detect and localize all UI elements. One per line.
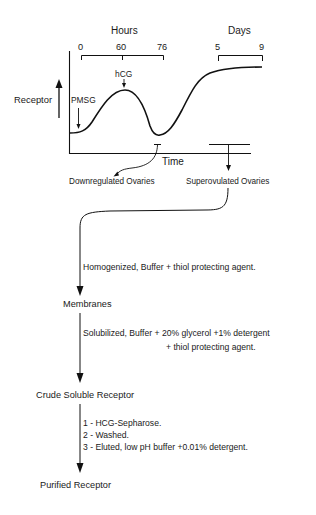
step-purify-1: 1 - HCG-Sepharose. bbox=[83, 418, 161, 428]
hcg-annotation: hCG bbox=[115, 69, 132, 79]
diagram-canvas bbox=[0, 0, 316, 515]
pmsg-annotation: PMSG bbox=[71, 95, 96, 105]
downregulated-ovaries-label: Downregulated Ovaries bbox=[69, 177, 155, 187]
pmsg-arrow-icon bbox=[77, 108, 81, 129]
superovulated-ovaries-label: Superovulated Ovaries bbox=[186, 177, 269, 187]
downregulated-sample-marker bbox=[114, 145, 162, 177]
days-label: Days bbox=[228, 26, 251, 36]
y-axis-label: Receptor bbox=[14, 95, 52, 105]
x-axis-label: Time bbox=[162, 157, 184, 167]
step-purify-3: 3 - Eluted, low pH buffer +0.01% deterge… bbox=[83, 442, 248, 452]
receptor-up-arrow-icon bbox=[56, 79, 63, 118]
step-solubilize-line1: Solubilized, Buffer + 20% glycerol +1% d… bbox=[83, 328, 270, 338]
hcg-arrow-icon bbox=[122, 79, 126, 88]
hour-tick-0: 0 bbox=[78, 42, 83, 52]
hours-label: Hours bbox=[111, 26, 138, 36]
superovulated-sample-marker bbox=[209, 145, 250, 172]
hours-bracket bbox=[82, 56, 164, 61]
step-homogenize-label: Homogenized, Buffer + thiol protecting a… bbox=[83, 262, 256, 272]
step-purify-2: 2 - Washed. bbox=[83, 430, 129, 440]
receptor-curve bbox=[70, 67, 262, 135]
node-membranes: Membranes bbox=[63, 299, 112, 309]
flow-arrow-homogenize bbox=[77, 188, 229, 296]
flow-arrow-solubilize bbox=[77, 313, 84, 383]
node-crude-soluble-receptor: Crude Soluble Receptor bbox=[36, 390, 134, 400]
hour-tick-60: 60 bbox=[116, 42, 126, 52]
node-purified-receptor: Purified Receptor bbox=[40, 480, 111, 490]
hour-tick-76: 76 bbox=[157, 42, 167, 52]
step-solubilize-line2: + thiol protecting agent. bbox=[166, 342, 256, 352]
days-bracket bbox=[219, 56, 263, 62]
day-tick-5: 5 bbox=[215, 42, 220, 52]
chart-axes bbox=[69, 51, 251, 154]
day-tick-9: 9 bbox=[259, 42, 264, 52]
